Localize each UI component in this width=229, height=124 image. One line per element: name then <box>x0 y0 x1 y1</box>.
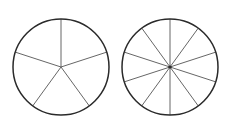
sector-spoke <box>170 52 216 67</box>
sector-spoke <box>124 52 170 67</box>
sector-spoke <box>33 67 61 106</box>
sector-spoke <box>124 67 170 82</box>
diagram-canvas <box>0 0 229 124</box>
circle-ten-sectors <box>122 19 218 115</box>
sector-spoke <box>142 67 170 106</box>
sector-spoke <box>142 28 170 67</box>
circle-five-sectors <box>13 19 109 115</box>
sector-spoke <box>170 67 198 106</box>
center-dot <box>168 65 171 68</box>
sector-spoke <box>170 67 216 82</box>
sector-spoke <box>61 67 89 106</box>
sector-spoke <box>170 28 198 67</box>
sector-spoke <box>15 52 61 67</box>
sector-spoke <box>61 52 107 67</box>
